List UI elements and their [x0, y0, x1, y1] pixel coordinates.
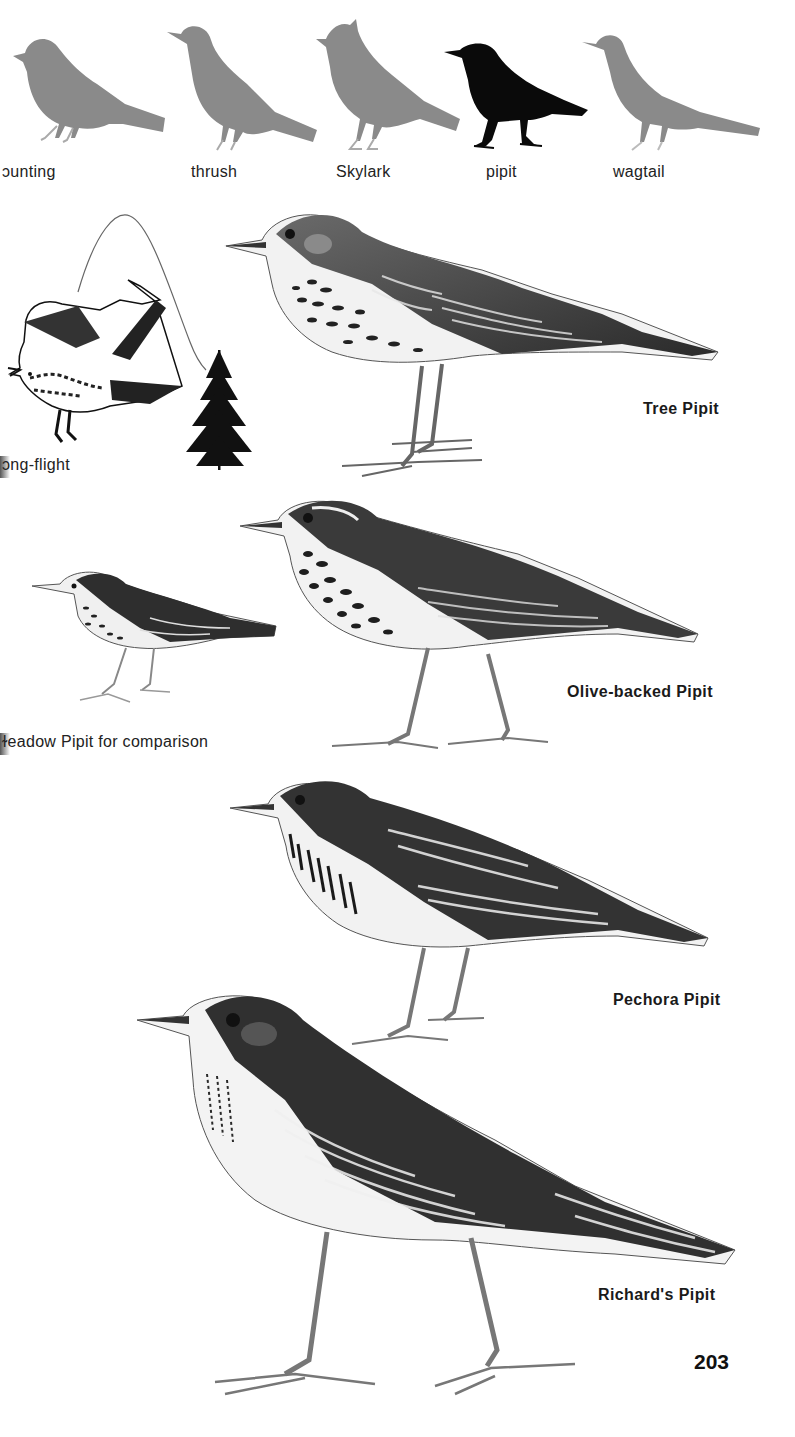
tree-pipit-illustration-icon — [222, 204, 722, 484]
richards-pipit-illustration-icon — [135, 990, 745, 1400]
song-flight-caption: ɔng-flight — [2, 456, 70, 474]
page-number: 203 — [694, 1350, 729, 1374]
silhouette-label-wagtail: wagtail — [613, 163, 665, 181]
silhouette-label-thrush: thrush — [191, 163, 237, 181]
comparison-caption: ɫeadow Pipit for comparison — [2, 733, 208, 751]
wagtail-silhouette-icon — [580, 30, 765, 155]
silhouette-label-bunting: ɔunting — [2, 163, 56, 181]
species-label-tree-pipit: Tree Pipit — [643, 400, 719, 418]
bunting-silhouette-icon — [5, 20, 165, 150]
pipit-silhouette-icon — [442, 40, 592, 155]
song-flight-bird-icon — [8, 280, 182, 442]
silhouette-label-skylark: Skylark — [336, 163, 391, 181]
species-label-richards-pipit: Richard's Pipit — [598, 1286, 715, 1304]
thrush-silhouette-icon — [165, 20, 325, 155]
olive-backed-pipit-illustration-icon — [238, 494, 703, 759]
species-label-olive-backed-pipit: Olive-backed Pipit — [567, 683, 713, 701]
silhouette-label-pipit: pipit — [486, 163, 517, 181]
